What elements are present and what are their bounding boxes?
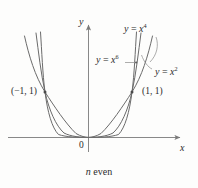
point-marker-left (44, 91, 47, 94)
origin-label: 0 (79, 141, 84, 151)
x-axis-label: x (180, 143, 184, 153)
point-marker-right (131, 91, 134, 94)
curve-label-x6-exp: 6 (116, 53, 119, 60)
point-label-minus-one-one: (−1, 1) (11, 87, 37, 97)
curve-label-x2-exp: 2 (175, 65, 178, 72)
curve-label-x2: y = x2 (155, 67, 178, 77)
curve-label-x4-eq: = (128, 23, 139, 34)
curve-label-x2-eq: = (159, 66, 170, 77)
curve-label-x6: y = x6 (96, 55, 119, 65)
power-functions-figure: y = x4 y = x6 y = x2 (−1, 1) (1, 1) y x … (0, 0, 198, 188)
leader-dot-x6 (135, 61, 137, 63)
point-label-one-one: (1, 1) (142, 87, 163, 97)
y-axis-label: y (79, 17, 83, 27)
curve-label-x4: y = x4 (124, 24, 147, 34)
figure-caption: n even (0, 166, 198, 177)
curve-label-x4-exp: 4 (144, 22, 147, 29)
caption-text: even (91, 166, 112, 177)
curve-label-x6-eq: = (100, 54, 111, 65)
